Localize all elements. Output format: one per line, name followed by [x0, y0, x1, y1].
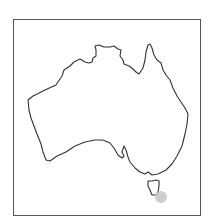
australia-map [0, 0, 213, 223]
location-marker[interactable] [155, 191, 167, 203]
mainland-outline [28, 44, 188, 175]
